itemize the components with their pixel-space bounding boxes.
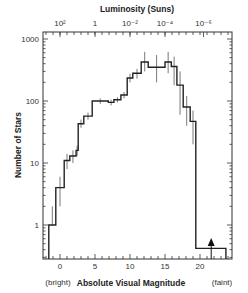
y-axis-title: Number of Stars — [13, 112, 23, 178]
x-tick-label: 10 — [126, 262, 135, 271]
x-axis-bright-label: (bright) — [45, 278, 71, 287]
top-tick-label: 10⁻⁶ — [195, 19, 211, 28]
plot-frame — [43, 32, 232, 259]
y-tick-label: 100 — [26, 97, 40, 106]
y-tick-label: 1 — [35, 221, 40, 230]
x-axis-title: Absolute Visual Magnitude — [77, 278, 186, 288]
error-bars — [52, 52, 193, 225]
x-axis-ticks: 05101520 — [46, 254, 228, 271]
star-magnitude-histogram: 1101001000 05101520 10²110⁻²10⁻⁴10⁻⁶ Lum… — [0, 0, 248, 293]
y-tick-label: 10 — [30, 159, 39, 168]
y-axis-ticks: 1101001000 — [21, 35, 232, 257]
top-tick-label: 10² — [54, 19, 66, 28]
top-tick-label: 10⁻² — [122, 19, 138, 28]
x-tick-label: 5 — [93, 262, 98, 271]
y-tick-label: 1000 — [21, 35, 39, 44]
x-axis-faint-label: (faint) — [212, 278, 233, 287]
top-axis-ticks: 10²110⁻²10⁻⁴10⁻⁶ — [46, 19, 228, 37]
x-tick-label: 0 — [58, 262, 63, 271]
histogram-step-line — [49, 62, 226, 259]
top-axis-title: Luminosity (Suns) — [100, 4, 174, 14]
top-tick-label: 10⁻⁴ — [157, 19, 174, 28]
top-tick-label: 1 — [93, 19, 98, 28]
x-tick-label: 20 — [196, 262, 205, 271]
x-tick-label: 15 — [161, 262, 170, 271]
